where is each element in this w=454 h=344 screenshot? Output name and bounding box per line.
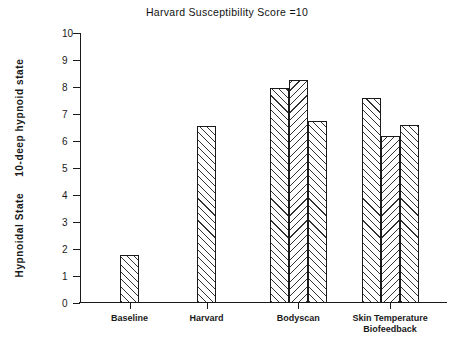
bar — [400, 125, 419, 303]
bar — [362, 98, 381, 303]
x-axis-category-label: Harvard — [190, 313, 224, 324]
x-axis-category-label-line1: Skin Temperature — [352, 313, 427, 323]
bar — [308, 121, 327, 303]
y-axis-label: Hypnoidal State10-deep hypnoid state — [6, 30, 32, 305]
y-tick-label: 2 — [62, 244, 66, 255]
y-tick-label: 4 — [62, 190, 66, 201]
x-axis-category-label-line2: Biofeedback — [352, 324, 427, 335]
bar — [289, 80, 308, 303]
y-tick-mark — [73, 195, 80, 196]
y-tick-label: 5 — [62, 163, 66, 174]
y-tick-label: 0 — [62, 298, 66, 309]
x-tick-mark — [130, 303, 131, 309]
bar — [381, 136, 400, 303]
y-tick-label: 7 — [62, 109, 66, 120]
y-tick-mark — [73, 303, 80, 304]
x-axis-category-label-line1: Bodyscan — [277, 313, 320, 323]
y-tick-mark — [73, 87, 80, 88]
y-tick-mark — [73, 276, 80, 277]
plot-area: 109876543210 BaselineHarvardBodyscanSkin… — [80, 33, 447, 303]
y-axis-label-scale: 10-deep hypnoid state — [14, 58, 25, 176]
bar — [197, 126, 216, 303]
x-tick-mark — [298, 303, 299, 309]
x-axis-category-label-line1: Baseline — [111, 313, 148, 323]
y-axis-line — [80, 33, 81, 303]
y-tick-label: 9 — [62, 55, 66, 66]
y-axis-label-primary: Hypnoidal State — [14, 192, 25, 277]
y-tick-mark — [73, 222, 80, 223]
bar — [120, 255, 139, 303]
y-tick-mark — [73, 168, 80, 169]
y-tick-mark — [73, 141, 80, 142]
bar — [270, 88, 289, 303]
x-axis-category-label: Baseline — [111, 313, 148, 324]
x-tick-mark — [390, 303, 391, 309]
y-tick-label: 10 — [62, 28, 66, 39]
y-tick-label: 1 — [62, 271, 66, 282]
y-tick-mark — [73, 249, 80, 250]
x-tick-mark — [207, 303, 208, 309]
x-axis-category-label: Bodyscan — [277, 313, 320, 324]
y-tick-mark — [73, 114, 80, 115]
y-tick-mark — [73, 33, 80, 34]
y-tick-mark — [73, 60, 80, 61]
y-tick-label: 3 — [62, 217, 66, 228]
chart-title: Harvard Susceptibility Score =10 — [0, 6, 454, 18]
x-axis-category-label: Skin TemperatureBiofeedback — [352, 313, 427, 335]
chart-container: Harvard Susceptibility Score =10 Hypnoid… — [0, 0, 454, 344]
y-tick-label: 8 — [62, 82, 66, 93]
x-axis-category-label-line1: Harvard — [190, 313, 224, 323]
y-tick-label: 6 — [62, 136, 66, 147]
